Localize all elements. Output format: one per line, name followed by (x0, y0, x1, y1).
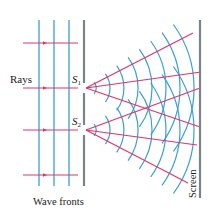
wave-arc (128, 99, 138, 160)
s1-label: S1 (72, 73, 82, 87)
ray-arrowhead-icon (43, 86, 47, 90)
diffracted-ray (86, 72, 201, 88)
ray-arrowhead-icon (43, 173, 47, 177)
s1-subscript: 1 (78, 79, 82, 87)
ray-arrowhead-icon (43, 41, 47, 45)
wave-arc (151, 83, 166, 177)
incoming-rays (23, 41, 78, 177)
s2-label: S2 (72, 115, 82, 129)
ray-arrowhead-icon (43, 128, 47, 132)
wave-arc (162, 33, 180, 144)
double-slit-diagram: Rays S1 S2 Wave fronts Screen (0, 0, 214, 221)
diagram-canvas: Rays S1 S2 Wave fronts Screen (0, 0, 214, 221)
screen-label: Screen (187, 169, 198, 198)
wave-arc (173, 25, 194, 152)
incoming-wave-fronts (39, 20, 69, 186)
wave-arc (151, 41, 166, 135)
wave-arc (117, 108, 124, 153)
wave-arc (128, 57, 138, 118)
diffracted-ray (86, 33, 193, 88)
wave-fronts-label: Wave fronts (33, 196, 84, 207)
s2-subscript: 2 (78, 121, 82, 129)
wave-arc (162, 75, 180, 186)
wave-arc (117, 66, 124, 111)
rays-label: Rays (10, 73, 32, 85)
